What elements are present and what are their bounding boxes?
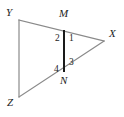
vertex-label-m: M <box>59 8 68 19</box>
angle-label-3: 3 <box>69 58 74 68</box>
edge-zx <box>19 41 104 97</box>
angle-label-4: 4 <box>54 65 59 75</box>
vertex-label-n: N <box>60 75 67 86</box>
vertex-label-x: X <box>109 28 116 39</box>
edge-yx <box>19 20 104 41</box>
angle-label-2: 2 <box>55 34 60 44</box>
geometry-figure: Y Z X M N 1 2 3 4 <box>0 0 124 117</box>
angle-label-1: 1 <box>69 34 74 44</box>
vertex-label-y: Y <box>6 7 12 18</box>
vertex-label-z: Z <box>7 97 13 108</box>
